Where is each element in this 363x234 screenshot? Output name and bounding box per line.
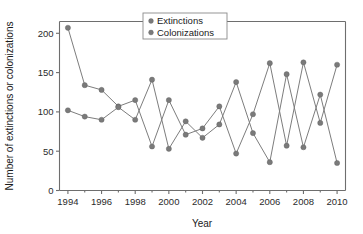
plot-frame xyxy=(60,22,346,191)
y-tick-label: 100 xyxy=(38,106,54,117)
data-point xyxy=(133,117,138,122)
y-tick-label: 50 xyxy=(43,146,54,157)
data-point xyxy=(116,105,121,110)
data-point xyxy=(301,145,306,150)
data-point xyxy=(334,62,339,67)
data-point xyxy=(183,132,188,137)
x-tick-label: 2010 xyxy=(327,196,348,207)
data-point xyxy=(284,143,289,148)
data-point xyxy=(183,119,188,124)
y-axis-title: Number of extinctions or colonizations xyxy=(4,22,15,191)
y-tick-label: 0 xyxy=(48,185,53,196)
data-point xyxy=(166,98,171,103)
data-point xyxy=(133,98,138,103)
x-tick-label: 2002 xyxy=(192,196,213,207)
data-point xyxy=(65,25,70,30)
data-point xyxy=(99,117,104,122)
series-line xyxy=(68,74,337,163)
data-point xyxy=(318,92,323,97)
data-point xyxy=(334,160,339,165)
data-point xyxy=(65,108,70,113)
y-tick-label: 150 xyxy=(38,67,54,78)
x-tick-label: 1996 xyxy=(91,196,112,207)
x-tick-label: 2004 xyxy=(226,196,247,207)
data-point xyxy=(267,160,272,165)
data-point xyxy=(301,60,306,65)
legend-label-extinctions: Extinctions xyxy=(157,15,203,26)
data-point xyxy=(250,112,255,117)
chart-figure: 050100150200 199419961998200020022004200… xyxy=(0,0,363,234)
x-tick-label: 2008 xyxy=(293,196,314,207)
y-axis-ticks: 050100150200 xyxy=(38,28,60,196)
x-tick-label: 1994 xyxy=(57,196,78,207)
x-axis-title: Year xyxy=(192,218,213,229)
x-tick-label: 2006 xyxy=(259,196,280,207)
data-point xyxy=(217,104,222,109)
data-point xyxy=(149,77,154,82)
data-point xyxy=(267,61,272,66)
data-point xyxy=(284,72,289,77)
data-point xyxy=(200,135,205,140)
data-point xyxy=(234,79,239,84)
chart-legend: ExtinctionsColonizations xyxy=(143,13,227,39)
data-point xyxy=(99,87,104,92)
data-series-layer xyxy=(65,25,339,165)
data-point xyxy=(149,144,154,149)
data-point xyxy=(82,83,87,88)
series-line xyxy=(68,28,337,154)
legend-marker-colonizations xyxy=(149,30,154,35)
data-point xyxy=(166,146,171,151)
data-point xyxy=(250,131,255,136)
line-chart: 050100150200 199419961998200020022004200… xyxy=(0,0,363,234)
legend-marker-extinctions xyxy=(149,19,154,24)
legend-label-colonizations: Colonizations xyxy=(157,27,214,38)
data-point xyxy=(82,114,87,119)
x-tick-label: 1998 xyxy=(125,196,146,207)
x-axis-ticks: 199419961998200020022004200620082010 xyxy=(57,191,347,207)
data-point xyxy=(200,126,205,131)
x-tick-label: 2000 xyxy=(158,196,179,207)
data-point xyxy=(234,151,239,156)
data-point xyxy=(318,120,323,125)
data-point xyxy=(217,122,222,127)
y-tick-label: 200 xyxy=(38,28,54,39)
